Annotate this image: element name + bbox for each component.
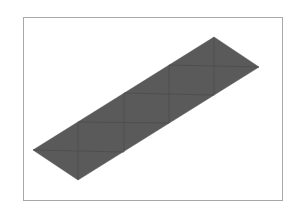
mesh-diagram — [0, 0, 299, 218]
mesh-strip — [33, 37, 259, 180]
